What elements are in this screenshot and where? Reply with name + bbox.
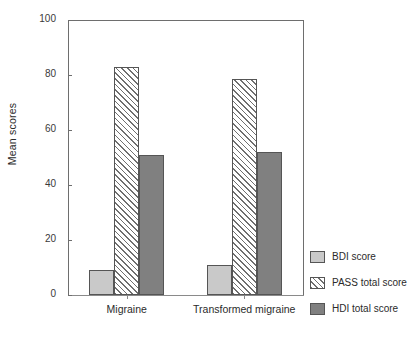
y-axis-title: Mean scores xyxy=(6,79,18,189)
y-axis-tick-label: 60 xyxy=(45,123,56,134)
y-axis-tick-label: 0 xyxy=(50,288,56,299)
chart-figure: Mean scores 020406080100 MigraineTransfo… xyxy=(0,0,416,340)
axis-bottom-spine xyxy=(68,295,304,296)
y-axis-tick-label: 40 xyxy=(45,178,56,189)
bar xyxy=(89,270,114,295)
legend-item: HDI total score xyxy=(310,301,416,316)
x-axis-tick-label: Transformed migraine xyxy=(164,303,324,315)
y-axis-tick-mark xyxy=(68,295,72,296)
legend-swatch xyxy=(310,277,325,289)
legend-item: BDI score xyxy=(310,249,416,264)
legend-label: BDI score xyxy=(332,251,376,262)
bar xyxy=(114,67,139,295)
chart-legend: BDI scorePASS total scoreHDI total score xyxy=(310,249,416,327)
axis-right-spine xyxy=(303,20,304,296)
legend-label: PASS total score xyxy=(332,277,407,288)
legend-label: HDI total score xyxy=(332,303,398,314)
bar xyxy=(257,152,282,295)
y-axis-tick-label: 100 xyxy=(39,13,56,24)
x-axis-tick-mark xyxy=(127,295,128,299)
bar xyxy=(232,79,257,295)
legend-swatch xyxy=(310,251,325,263)
bar xyxy=(139,155,164,295)
y-axis-tick-label: 80 xyxy=(45,68,56,79)
y-axis-tick-label: 20 xyxy=(45,233,56,244)
x-axis-tick-mark xyxy=(244,295,245,299)
plot-area xyxy=(68,20,303,295)
legend-item: PASS total score xyxy=(310,275,416,290)
legend-swatch xyxy=(310,303,325,315)
bar xyxy=(207,265,232,295)
